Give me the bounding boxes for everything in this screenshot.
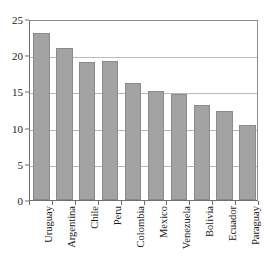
x-axis-tick-mark: [52, 201, 53, 205]
x-axis-tick-label: Ecuador: [228, 206, 239, 241]
x-axis-tick-mark: [98, 201, 99, 205]
x-axis-tick-label: Colombia: [136, 206, 147, 247]
x-axis-tick-mark: [235, 201, 236, 205]
bar: [102, 61, 118, 200]
x-axis-tick-mark: [75, 201, 76, 205]
x-axis-tick-mark: [121, 201, 122, 205]
x-axis-tick-label: Argentina: [67, 206, 78, 248]
bar: [148, 91, 164, 200]
y-axis-tick-label: 0: [18, 196, 24, 207]
bar: [194, 105, 210, 200]
x-axis-tick-label: Chile: [90, 206, 101, 229]
y-axis-tick-label: 20: [12, 51, 23, 62]
y-axis-tick-label: 25: [12, 15, 23, 26]
x-axis-tick-label: Mexico: [159, 206, 170, 238]
y-axis-tick-label: 10: [12, 123, 23, 134]
plot-area: [29, 20, 258, 201]
bar: [79, 62, 95, 200]
x-axis-tick-label: Bolivia: [205, 206, 216, 237]
y-axis: 0510152025: [0, 20, 29, 201]
bar: [171, 94, 187, 200]
y-axis-tick-label: 15: [12, 87, 23, 98]
bar: [239, 125, 255, 200]
x-axis-tick-mark: [166, 201, 167, 205]
bar: [33, 33, 49, 200]
bar: [56, 48, 72, 200]
x-axis-tick-label: Venezuela: [182, 206, 193, 249]
x-axis-tick-mark: [258, 201, 259, 205]
bars-layer: [30, 21, 257, 200]
x-axis-tick-label: Peru: [113, 206, 124, 225]
bar: [125, 83, 141, 200]
bar-chart-figure: 0510152025 UruguayArgentinaChilePeruColo…: [0, 0, 267, 261]
x-axis-tick-mark: [29, 201, 30, 205]
x-axis-tick-label: Paraguay: [251, 206, 262, 245]
x-axis-tick-mark: [212, 201, 213, 205]
x-axis-tick-mark: [189, 201, 190, 205]
x-axis-labels: UruguayArgentinaChilePeruColombiaMexicoV…: [29, 206, 258, 261]
x-axis-tick-label: Uruguay: [44, 206, 55, 243]
bar: [216, 111, 232, 200]
x-axis-tick-mark: [144, 201, 145, 205]
y-axis-tick-label: 5: [18, 159, 24, 170]
